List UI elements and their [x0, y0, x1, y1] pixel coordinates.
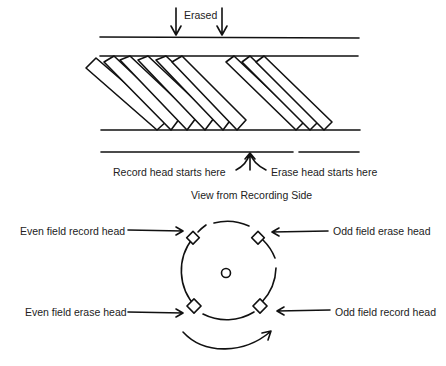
- even-erase-head: [187, 299, 201, 313]
- start-arrow: [236, 153, 266, 170]
- even-record-head: [187, 231, 200, 244]
- erased-label: Erased: [184, 9, 217, 21]
- rotation-arrow: [183, 331, 271, 349]
- odd-record-head: [253, 299, 267, 313]
- erase-start-label: Erase head starts here: [271, 166, 377, 178]
- arrow-even-record: [128, 227, 183, 235]
- drum-spindle: [222, 269, 231, 278]
- erased-arrow-left: [171, 8, 181, 35]
- odd-erase-label: Odd field erase head: [333, 225, 430, 237]
- arrow-even-erase: [128, 309, 183, 317]
- record-start-label: Record head starts here: [113, 166, 226, 178]
- odd-erase-head: [252, 231, 265, 244]
- odd-record-label: Odd field record head: [335, 306, 436, 318]
- even-erase-label: Even field erase head: [25, 306, 127, 318]
- recorded-tracks-left: [86, 56, 246, 130]
- diagram-caption: View from Recording Side: [191, 189, 312, 201]
- tape-line-top: [100, 37, 359, 38]
- even-record-label: Even field record head: [20, 225, 125, 237]
- arrow-odd-erase: [272, 228, 328, 236]
- erased-arrow-right: [217, 8, 227, 35]
- arrow-odd-record: [277, 307, 330, 315]
